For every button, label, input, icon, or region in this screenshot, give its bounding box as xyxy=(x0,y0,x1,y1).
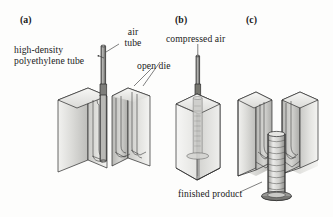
panel-label-c: (c) xyxy=(246,14,257,25)
die-half-left-a xyxy=(58,88,107,172)
compressed-air-tube-b xyxy=(195,55,201,98)
label-air-tube-line2: tube xyxy=(120,37,146,48)
label-finished-product: finished product xyxy=(178,188,242,199)
panel-label-b: (b) xyxy=(175,14,187,25)
air-tube-a xyxy=(100,45,107,96)
label-hdpe-tube-line1: high-density xyxy=(14,44,84,55)
blow-molding-figure: (a) (b) (c) high-density polyethylene tu… xyxy=(0,0,333,217)
polyethylene-parison-a xyxy=(100,95,106,162)
label-hdpe-tube: high-density polyethylene tube xyxy=(14,44,84,66)
die-half-right-a xyxy=(112,88,150,166)
label-hdpe-tube-line2: polyethylene tube xyxy=(14,55,84,66)
panel-b-artwork xyxy=(176,55,220,180)
leader-air-tube xyxy=(106,44,119,52)
die-half-right-c xyxy=(282,92,318,174)
label-air-tube-line1: air xyxy=(120,26,146,37)
panel-label-a: (a) xyxy=(20,14,32,25)
label-compressed-air: compressed air xyxy=(166,33,225,44)
die-half-left-c xyxy=(238,92,272,176)
panel-c-artwork xyxy=(238,92,318,201)
label-open-die: open die xyxy=(137,60,171,71)
leader-finished-product xyxy=(240,182,262,192)
label-air-tube: air tube xyxy=(120,26,146,48)
